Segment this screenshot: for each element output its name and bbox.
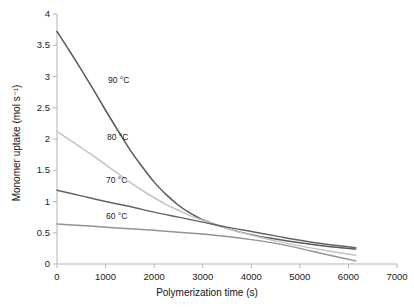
x-axis-title: Polymerization time (s) xyxy=(0,288,414,298)
x-axis-tick-label: 7000 xyxy=(367,272,414,282)
y-axis-title: Monomer uptake (mol s⁻¹) xyxy=(12,53,22,233)
series-label-90c: 90 °C xyxy=(108,76,129,85)
y-axis-tick-label: 4 xyxy=(7,9,50,19)
y-axis-tick-label: 3.5 xyxy=(7,40,50,50)
y-axis-tick-label: 0 xyxy=(7,259,50,269)
x-axis-ticks xyxy=(57,264,397,268)
series-line-90c xyxy=(57,32,356,250)
series-label-70c: 70 °C xyxy=(106,176,127,185)
series-label-60c: 60 °C xyxy=(106,212,127,221)
series-line-80c xyxy=(57,132,356,256)
series-paths xyxy=(57,32,356,261)
series-label-80c: 80 °C xyxy=(107,133,128,142)
chart-container: 00.511.522.533.54 0100020003000400050006… xyxy=(0,0,414,308)
plot-canvas xyxy=(0,0,414,308)
series-line-70c xyxy=(57,190,356,248)
y-axis-ticks xyxy=(53,14,57,264)
